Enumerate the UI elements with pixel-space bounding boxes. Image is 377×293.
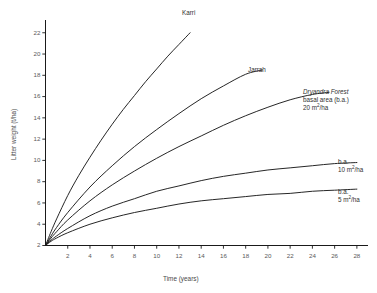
- y-tick-label: 18: [20, 72, 41, 78]
- y-tick-label: 20: [20, 51, 41, 57]
- curve-label-ba-5-line2: 5 m2/ha: [338, 196, 360, 204]
- curve-label-dryandra-line1: Dryandra Forest: [303, 88, 349, 96]
- x-tick-label: 14: [192, 253, 210, 259]
- curve-label-ba-10: b.a. 10 m2/ha: [338, 158, 363, 174]
- y-tick-label: 8: [20, 178, 41, 184]
- curve-label-karri-text: Karri: [182, 9, 195, 16]
- x-tick-label: 22: [281, 253, 299, 259]
- ba5-tail: /ha: [351, 196, 360, 203]
- ba5-value: 5: [338, 196, 342, 203]
- ba10-tail: /ha: [355, 166, 364, 173]
- x-tick-label: 10: [148, 253, 166, 259]
- dryandra-ba-value: 20: [303, 104, 310, 111]
- y-tick-label: 10: [20, 157, 41, 163]
- x-tick-label: 2: [59, 253, 77, 259]
- x-tick-label: 16: [214, 253, 232, 259]
- x-tick-label: 28: [348, 253, 366, 259]
- y-tick-label: 4: [20, 221, 41, 227]
- chart-curve: [46, 189, 357, 245]
- x-tick-label: 20: [259, 253, 277, 259]
- ba10-value: 10: [338, 166, 345, 173]
- curve-label-jarrah: Jarrah: [248, 66, 266, 74]
- x-tick-label: 24: [303, 253, 321, 259]
- curve-label-dryandra: Dryandra Forest basal area (b.a.) 20 m2/…: [303, 88, 349, 112]
- x-axis-title: Time (years): [163, 276, 199, 282]
- chart-curve: [46, 163, 357, 246]
- curve-label-ba-10-line2: 10 m2/ha: [338, 166, 363, 174]
- y-tick-label: 6: [20, 200, 41, 206]
- curve-label-ba-10-line1: b.a.: [338, 158, 363, 166]
- x-tick-label: 8: [125, 253, 143, 259]
- x-tick-label: 18: [237, 253, 255, 259]
- litter-weight-chart: 246810121416182022 246810121416182022242…: [0, 0, 377, 293]
- curve-label-karri: Karri: [182, 9, 195, 17]
- y-axis-title: Litter weight (t/ha): [11, 109, 17, 160]
- y-tick-label: 14: [20, 115, 41, 121]
- x-tick-label: 12: [170, 253, 188, 259]
- chart-curve: [46, 92, 330, 245]
- y-tick-label: 16: [20, 93, 41, 99]
- curve-label-jarrah-text: Jarrah: [248, 66, 266, 73]
- curve-label-dryandra-line2: basal area (b.a.): [303, 96, 349, 104]
- x-tick-label: 4: [81, 253, 99, 259]
- y-tick-label: 12: [20, 136, 41, 142]
- y-tick-label: 22: [20, 30, 41, 36]
- dryandra-ba-tail: /ha: [320, 104, 329, 111]
- chart-curve: [46, 70, 263, 246]
- y-tick-label: 2: [20, 242, 41, 248]
- x-tick-label: 6: [103, 253, 121, 259]
- chart-curves: [46, 33, 357, 246]
- chart-plot-area: [0, 0, 377, 293]
- curve-label-dryandra-line3: 20 m2/ha: [303, 104, 349, 112]
- curve-label-ba-5: b.a. 5 m2/ha: [338, 188, 360, 204]
- x-tick-label: 26: [326, 253, 344, 259]
- axis-lines: [45, 20, 368, 246]
